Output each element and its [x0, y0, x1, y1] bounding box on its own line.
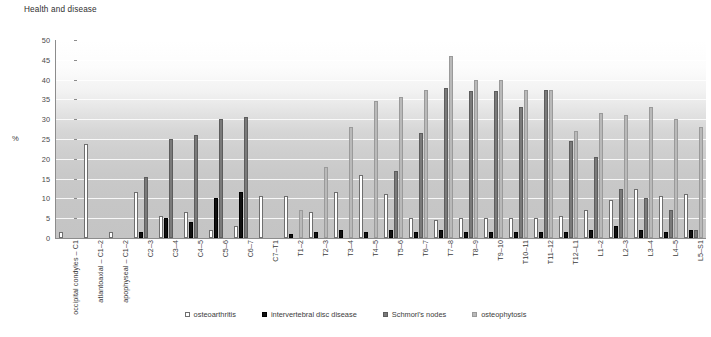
bar — [144, 177, 148, 238]
y-tick-label: 40 — [24, 75, 50, 84]
bar — [244, 117, 248, 238]
legend-swatch-icon — [472, 312, 477, 317]
legend-label: intervertebral disc disease — [271, 310, 357, 319]
y-tick-mark — [74, 40, 77, 41]
x-tick-label: T7–8 — [447, 240, 455, 257]
bar-group — [256, 40, 281, 238]
bar — [209, 230, 213, 238]
bar — [324, 167, 328, 238]
bar — [419, 133, 423, 238]
x-axis-line — [55, 238, 706, 239]
x-tick-label: C5–6 — [222, 240, 230, 257]
y-tick-mark — [74, 99, 77, 100]
bar-group — [206, 40, 231, 238]
legend-item[interactable]: osteoarthritis — [185, 310, 236, 319]
bar — [614, 226, 618, 238]
y-tick-mark — [74, 119, 77, 120]
bar — [649, 107, 653, 238]
bar — [284, 196, 288, 238]
bar-group — [506, 40, 531, 238]
y-axis-tick-labels: 05101520253035404550 — [22, 0, 50, 337]
bar — [474, 80, 478, 238]
y-tick-label: 25 — [24, 135, 50, 144]
bar — [339, 230, 343, 238]
y-tick-mark — [74, 159, 77, 160]
bar — [164, 218, 168, 238]
bar — [689, 230, 693, 238]
x-tick-label: T1–2 — [297, 240, 305, 257]
bar — [399, 97, 403, 238]
bar-group — [81, 40, 106, 238]
legend-swatch-icon — [185, 312, 190, 317]
x-tick-label: C7–T1 — [272, 240, 280, 262]
x-tick-label: L3–4 — [647, 240, 655, 256]
bar — [669, 210, 673, 238]
legend-item[interactable]: osteophytosis — [472, 310, 526, 319]
bar — [194, 135, 198, 238]
y-tick-label: 50 — [24, 36, 50, 45]
bar — [589, 230, 593, 238]
x-tick-label: T8–9 — [472, 240, 480, 257]
bar-group — [181, 40, 206, 238]
y-tick-label: 5 — [24, 214, 50, 223]
x-tick-label: atlantoaxial – C1–2 — [97, 240, 105, 303]
bar — [534, 218, 538, 238]
chart-legend: osteoarthritisintervertebral disc diseas… — [0, 310, 711, 319]
bar-group — [231, 40, 256, 238]
bar — [524, 90, 528, 239]
bar — [469, 91, 473, 238]
bar-group — [656, 40, 681, 238]
bar-group — [356, 40, 381, 238]
legend-label: osteoarthritis — [194, 310, 236, 319]
bar — [559, 216, 563, 238]
bar — [444, 88, 448, 238]
bar-group — [456, 40, 481, 238]
bar — [439, 230, 443, 238]
x-tick-label: L2–3 — [622, 240, 630, 256]
legend-item[interactable]: intervertebral disc disease — [262, 310, 357, 319]
bar-group — [681, 40, 706, 238]
bar — [519, 107, 523, 238]
bar — [234, 226, 238, 238]
bar — [219, 119, 223, 238]
x-tick-label: T12–L1 — [572, 240, 580, 265]
x-tick-label: T6–7 — [422, 240, 430, 257]
y-tick-mark — [74, 238, 77, 239]
bar — [214, 198, 218, 238]
legend-label: Schmorl's nodes — [392, 310, 446, 319]
bar — [459, 218, 463, 238]
bar — [409, 218, 413, 238]
bar — [499, 80, 503, 238]
bar — [644, 198, 648, 238]
x-tick-label: L5–S1 — [697, 240, 705, 261]
bar-group — [331, 40, 356, 238]
y-tick-mark — [74, 80, 77, 81]
bar-group — [481, 40, 506, 238]
bar — [584, 210, 588, 238]
x-tick-label: C3–4 — [172, 240, 180, 257]
x-tick-label: T5–6 — [397, 240, 405, 257]
x-tick-label: T2–3 — [322, 240, 330, 257]
legend-item[interactable]: Schmorl's nodes — [383, 310, 446, 319]
bar — [509, 218, 513, 238]
bar — [134, 192, 138, 238]
x-tick-label: T3–4 — [347, 240, 355, 257]
plot-area — [56, 40, 706, 238]
bar-group — [106, 40, 131, 238]
bar — [699, 127, 703, 238]
bar — [639, 230, 643, 238]
bar — [239, 192, 243, 238]
bar — [484, 218, 488, 238]
bar-chart: Health and disease % 0510152025303540455… — [0, 0, 711, 337]
bar-group — [306, 40, 331, 238]
x-tick-label: T4–5 — [372, 240, 380, 257]
bar — [384, 194, 388, 238]
bar — [434, 220, 438, 238]
y-tick-mark — [74, 198, 77, 199]
bar — [684, 194, 688, 238]
bar — [599, 113, 603, 238]
bar-group — [281, 40, 306, 238]
bar — [359, 175, 363, 238]
legend-swatch-icon — [262, 312, 267, 317]
bar — [549, 90, 553, 239]
